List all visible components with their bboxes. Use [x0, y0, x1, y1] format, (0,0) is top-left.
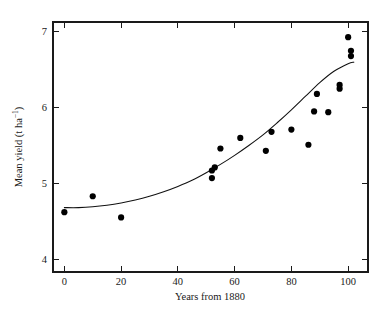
data-point — [263, 148, 269, 154]
data-point — [311, 108, 317, 114]
y-axis-title-base: Mean yield (t ha — [13, 118, 25, 187]
x-tick-label: 100 — [340, 276, 356, 287]
data-points-group — [61, 34, 354, 220]
fitted-trend-curve — [64, 62, 353, 208]
y-axis-title-exponent: −1 — [11, 110, 20, 118]
y-axis-ticks-left — [53, 32, 59, 259]
data-point — [288, 126, 294, 132]
data-point — [90, 193, 96, 199]
x-tick-label: 0 — [62, 276, 67, 287]
figure-container: 020406080100 4567 Years from 1880 Mean y… — [0, 0, 378, 313]
x-tick-label: 20 — [116, 276, 127, 287]
x-tick-label: 80 — [286, 276, 297, 287]
x-axis-tick-labels: 020406080100 — [62, 276, 356, 287]
data-point — [348, 48, 354, 54]
data-point — [118, 214, 124, 220]
y-axis-title: Mean yield (t ha−1) — [11, 106, 26, 187]
data-point — [314, 91, 320, 97]
x-axis-ticks-bottom — [64, 266, 348, 272]
x-tick-label: 40 — [173, 276, 184, 287]
y-tick-label: 4 — [42, 254, 48, 265]
data-point — [337, 86, 343, 92]
data-point — [325, 109, 331, 115]
x-axis-ticks-top — [64, 22, 348, 28]
plot-frame — [53, 22, 368, 272]
data-point — [345, 34, 351, 40]
data-point — [209, 175, 215, 181]
data-point — [305, 142, 311, 148]
data-point — [217, 145, 223, 151]
data-point — [212, 164, 218, 170]
y-tick-label: 6 — [42, 102, 47, 113]
y-tick-label: 7 — [42, 26, 47, 37]
x-axis-title: Years from 1880 — [175, 291, 245, 302]
data-point — [61, 209, 67, 215]
y-axis-tick-labels: 4567 — [42, 26, 48, 264]
scatter-plot: 020406080100 4567 Years from 1880 Mean y… — [0, 0, 378, 313]
y-axis-title-close: ) — [13, 106, 25, 110]
y-tick-label: 5 — [42, 178, 47, 189]
data-point — [268, 129, 274, 135]
data-point — [348, 53, 354, 59]
y-axis-ticks-right — [362, 32, 368, 259]
data-point — [237, 135, 243, 141]
x-tick-label: 60 — [229, 276, 240, 287]
